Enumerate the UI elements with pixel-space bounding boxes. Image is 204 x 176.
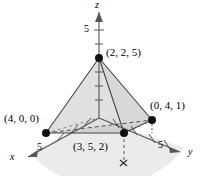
vertex-dot-vy [148,116,156,124]
y-axis-label: y [188,147,192,157]
figure-3d-tetrahedron: y x z 5 5 5 (2, 2, 5) (4, 0, 0) (0, 4, 1… [0,0,204,176]
vertex-dot-vfront [120,129,128,137]
vertex-dot-apex [95,54,103,62]
vertex-label-apex: (2, 2, 5) [106,47,141,58]
vertex-label-vy: (0, 4, 1) [150,100,185,111]
x-axis-tick-label-5: 5 [37,142,42,152]
vertex-label-vfront: (3, 5, 2) [73,141,108,152]
z-axis-arrowhead [95,12,103,22]
y-axis-tick-label-5: 5 [158,140,163,150]
vertex-dot-vx [42,129,50,137]
z-axis-tick-label-5: 5 [84,24,89,34]
vertex-label-vx: (4, 0, 0) [4,113,39,124]
x-axis-label: x [10,152,14,162]
z-axis-label: z [95,0,99,10]
